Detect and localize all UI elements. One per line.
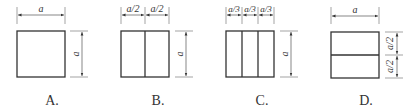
width-dimension-label: a/2: [127, 3, 140, 14]
option-label: A.: [45, 93, 59, 108]
width-dimension-label: a/3: [244, 4, 256, 14]
option-c: a/3 a/3 a/3 a C.: [226, 4, 298, 108]
option-b: a/2 a/2 a B.: [121, 3, 193, 108]
diagram-canvas: a a A. a/2 a/2 a B.: [0, 0, 414, 111]
width-dimension-label: a: [39, 3, 44, 14]
width-dimension-label: a/3: [260, 4, 272, 14]
square-a: [17, 31, 65, 77]
height-dimension-label: a/2: [384, 60, 395, 73]
height-dimension-label: a: [174, 52, 185, 57]
height-dimension-label: a/2: [384, 37, 395, 50]
height-dimension-label: a: [70, 52, 81, 57]
option-label: B.: [152, 93, 165, 108]
option-d: a a/2 a/2 D.: [331, 4, 403, 108]
square-c: [226, 31, 274, 77]
width-dimension-label: a/2: [151, 3, 164, 14]
option-label: D.: [359, 93, 373, 108]
width-dimension-label: a: [353, 4, 358, 15]
width-dimension-label: a/3: [228, 4, 240, 14]
height-dimension-label: a: [279, 52, 290, 57]
option-label: C.: [256, 93, 269, 108]
option-a: a a A.: [17, 3, 88, 108]
